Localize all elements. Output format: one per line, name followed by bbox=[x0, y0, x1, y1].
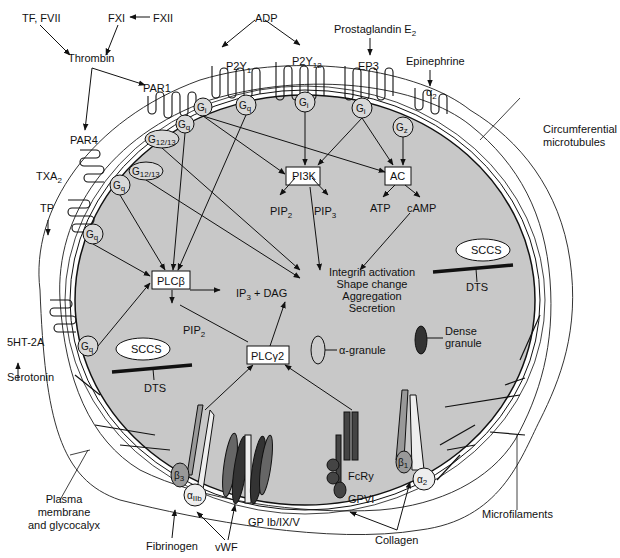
gpvi-label: GPVI bbox=[348, 493, 374, 505]
fcry-label: FcRy bbox=[348, 470, 374, 482]
sccs-label-1: SCCS bbox=[131, 343, 162, 355]
circumferential-label-1: Circumferential bbox=[543, 123, 617, 135]
dense-granule-label-2: granule bbox=[445, 337, 482, 349]
vwf-label: vWF bbox=[215, 541, 238, 553]
5ht2a-label: 5HT-2A bbox=[7, 336, 45, 348]
gp-ib-label: GP Ib/IX/V bbox=[248, 516, 300, 528]
dense-granule-label-1: Dense bbox=[445, 325, 477, 337]
dts-label-2: DTS bbox=[466, 281, 488, 293]
sccs-label-2: SCCS bbox=[471, 244, 502, 256]
fxi-label: FXI bbox=[108, 12, 125, 24]
tp-label: TP bbox=[40, 202, 54, 214]
plasma-label-3: and glycocalyx bbox=[28, 519, 101, 531]
plasma-label-2: membrane bbox=[38, 506, 91, 518]
atp-label: ATP bbox=[370, 202, 391, 214]
dense-granule bbox=[415, 326, 427, 354]
circumferential-label-2: microtubules bbox=[543, 136, 606, 148]
microfilaments-label: Microfilaments bbox=[482, 508, 553, 520]
ac-label: AC bbox=[390, 170, 405, 182]
serotonin-label: Serotonin bbox=[7, 371, 54, 383]
platelet-diagram: Gi Gq Gq Gi Gi Gz G12/13 G12/13 Gq Gq Gq bbox=[0, 0, 620, 558]
outcome-3: Secretion bbox=[349, 302, 395, 314]
ep3-label: EP3 bbox=[358, 60, 379, 72]
plasma-label-1: Plasma bbox=[46, 493, 84, 505]
fxii-label: FXII bbox=[153, 12, 173, 24]
prostaglandin-e2-label: Prostaglandin E2 bbox=[334, 23, 417, 38]
par4-label: PAR4 bbox=[70, 134, 98, 146]
alpha-granule-label: α-granule bbox=[339, 344, 386, 356]
collagen-label: Collagen bbox=[375, 534, 418, 546]
txa2-label: TXA2 bbox=[36, 170, 62, 185]
outcome-1: Shape change bbox=[337, 278, 408, 290]
outcome-2: Aggregation bbox=[342, 290, 401, 302]
adp-label: ADP bbox=[255, 12, 278, 24]
dts-label-1: DTS bbox=[144, 382, 166, 394]
camp-label: cAMP bbox=[407, 202, 436, 214]
plcb-label: PLCβ bbox=[157, 275, 185, 287]
alpha-granule bbox=[311, 336, 325, 364]
fibrinogen-label: Fibrinogen bbox=[146, 540, 198, 552]
thrombin-label: Thrombin bbox=[68, 52, 114, 64]
epinephrine-label: Epinephrine bbox=[406, 55, 465, 67]
par1-label: PAR1 bbox=[143, 82, 171, 94]
tf-fvii-label: TF, FVII bbox=[22, 12, 61, 24]
pi3k-label: PI3K bbox=[292, 170, 317, 182]
outcome-0: Integrin activation bbox=[329, 266, 415, 278]
plcg2-label: PLCγ2 bbox=[251, 350, 284, 362]
